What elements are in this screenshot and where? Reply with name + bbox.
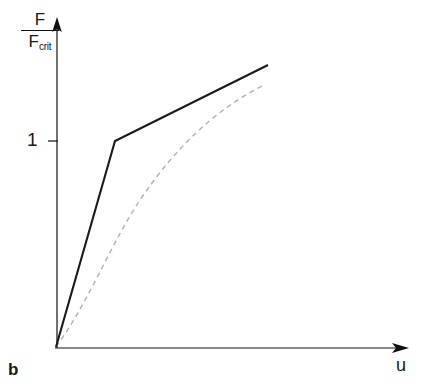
y-axis-label-numerator: F bbox=[17, 11, 63, 29]
y-axis-label-denominator-base: F bbox=[29, 32, 39, 51]
figure-panel-b: F Fcrit 1 u b bbox=[0, 0, 429, 389]
y-axis-label-denominator: Fcrit bbox=[17, 33, 63, 50]
plot-canvas bbox=[0, 0, 429, 389]
panel-label: b bbox=[8, 361, 18, 378]
y-tick-label-1: 1 bbox=[27, 130, 38, 149]
fraction-bar bbox=[21, 30, 59, 31]
y-axis-label-denominator-subscript: crit bbox=[39, 41, 52, 52]
dashed-curve bbox=[56, 86, 262, 347]
solid-curve bbox=[56, 65, 268, 347]
y-axis-label: F Fcrit bbox=[17, 11, 63, 50]
x-axis-label: u bbox=[396, 356, 406, 374]
